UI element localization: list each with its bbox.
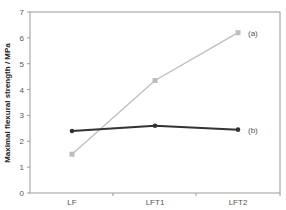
y-tick-label: 3	[20, 111, 25, 120]
y-axis-label: Maximal flexural strength / MPa	[3, 43, 12, 163]
data-point-marker	[70, 129, 75, 134]
x-tick-label: LFT2	[229, 198, 248, 207]
plot-frame	[30, 12, 280, 193]
series-layer: (a)(b)	[70, 29, 259, 157]
data-point-marker	[236, 30, 241, 35]
x-tick-label: LF	[67, 198, 76, 207]
series-label-b: (b)	[248, 126, 258, 135]
y-tick-label: 6	[20, 34, 25, 43]
flexural-strength-chart: 01234567LFLFT1LFT2 (a)(b) Maximal flexur…	[0, 0, 286, 210]
data-point-marker	[153, 78, 158, 83]
y-tick-label: 1	[20, 163, 25, 172]
chart-canvas: 01234567LFLFT1LFT2 (a)(b) Maximal flexur…	[0, 0, 286, 210]
y-tick-label: 5	[20, 60, 25, 69]
data-point-marker	[153, 123, 158, 128]
y-tick-label: 7	[20, 8, 25, 17]
data-point-marker	[70, 152, 75, 157]
axes: 01234567LFLFT1LFT2	[20, 8, 280, 207]
series-line-a	[72, 33, 238, 155]
y-tick-label: 4	[20, 86, 25, 95]
y-tick-label: 0	[20, 189, 25, 198]
series-label-a: (a)	[248, 29, 258, 38]
y-tick-label: 2	[20, 137, 25, 146]
data-point-marker	[236, 127, 241, 132]
x-tick-label: LFT1	[146, 198, 165, 207]
